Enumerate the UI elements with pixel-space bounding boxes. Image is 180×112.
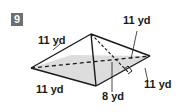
label-slant-edge: 11 yd [38, 34, 66, 46]
label-base-front-right: 11 yd [144, 78, 172, 90]
lateral-edge-right [91, 34, 150, 56]
label-base-back: 11 yd [123, 14, 151, 26]
label-slant-height: 8 yd [102, 90, 124, 102]
leader-line-base-back [131, 31, 137, 59]
pyramid-diagram: 11 yd 11 yd 11 yd 8 yd 11 yd [0, 0, 180, 112]
label-base-front-left: 11 yd [36, 83, 64, 95]
